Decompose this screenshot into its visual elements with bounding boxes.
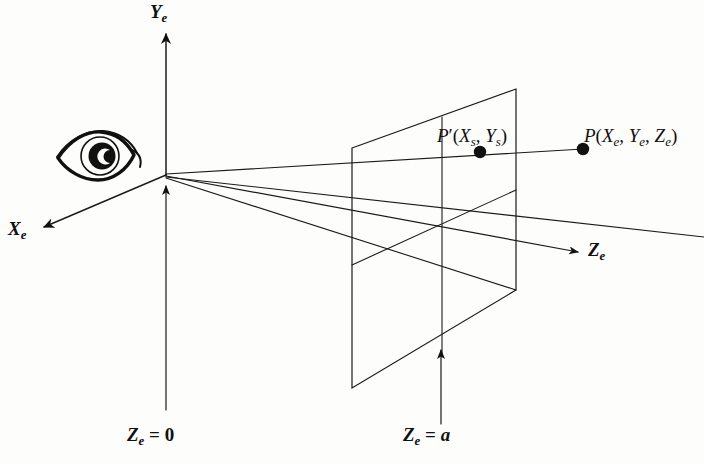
diagram-svg (0, 0, 704, 465)
axis-label-y: Ye (150, 2, 167, 25)
frustum-edge-lower (166, 178, 516, 290)
plane-interior-horizontal (352, 190, 516, 265)
point-label-p-world: P(Xe, Ye, Ze) (584, 126, 677, 149)
figure-canvas: Ye Xe Ze P′(Xs, Ys) P(Xe, Ye, Ze) Ze = 0… (0, 0, 704, 465)
plane-label-z-equals-zero: Ze = 0 (127, 425, 174, 448)
point-label-p-projected: P′(Xs, Ys) (437, 126, 507, 149)
sight-ray-upper (166, 149, 583, 174)
plane-label-z-equals-a: Ze = a (403, 425, 450, 448)
axis-label-x: Xe (8, 219, 26, 242)
axis-label-z: Ze (588, 240, 605, 263)
x-axis-line (44, 175, 166, 227)
sight-ray-lower (166, 177, 704, 237)
eye-icon (57, 131, 141, 180)
